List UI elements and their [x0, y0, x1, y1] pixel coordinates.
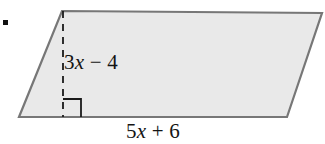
base-label-variable: x — [137, 119, 147, 143]
height-label-constant: − 4 — [84, 50, 118, 74]
base-label-constant: + 6 — [146, 119, 180, 143]
base-label: 5x + 6 — [126, 121, 180, 142]
height-label-coefficient: 3 — [64, 50, 75, 74]
base-label-coefficient: 5 — [126, 119, 137, 143]
parallelogram-figure: 3x − 4 5x + 6 — [0, 0, 325, 144]
height-label: 3x − 4 — [64, 52, 118, 73]
height-label-variable: x — [75, 50, 85, 74]
exercise-bullet-icon — [3, 20, 8, 25]
